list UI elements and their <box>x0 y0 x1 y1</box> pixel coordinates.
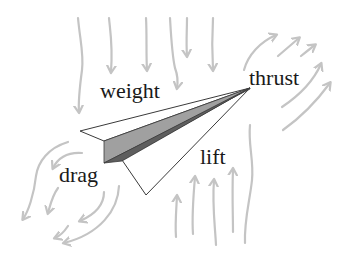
lift-label: lift <box>200 146 226 168</box>
drag-label: drag <box>59 164 98 186</box>
thrust-label: thrust <box>249 67 299 89</box>
paper-airplane-forces-diagram: weight thrust drag lift <box>0 0 349 260</box>
weight-label: weight <box>100 80 160 102</box>
paper-airplane <box>80 88 250 195</box>
diagram-canvas <box>0 0 349 260</box>
